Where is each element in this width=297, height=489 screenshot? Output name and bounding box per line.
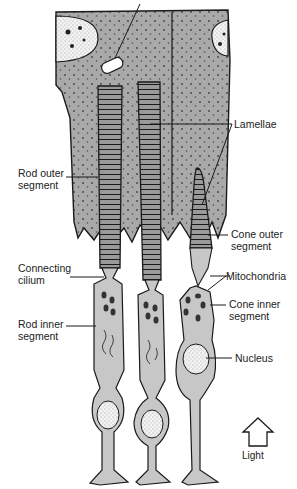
label-nucleus: Nucleus — [235, 352, 273, 364]
label-lamellae: Lamellae — [234, 118, 277, 130]
label-mitochondria: Mitochondria — [226, 270, 286, 282]
label-cone-outer-segment: Cone outer segment — [231, 228, 283, 252]
label-cone-inner-segment: Cone inner segment — [229, 298, 280, 322]
light-arrow-icon — [243, 418, 273, 446]
label-light: Light — [242, 450, 264, 462]
label-rod-outer-segment: Rod outer segment — [18, 167, 64, 191]
label-connecting-cilium: Connecting cilium — [18, 262, 71, 286]
label-rod-inner-segment: Rod inner segment — [18, 318, 64, 342]
